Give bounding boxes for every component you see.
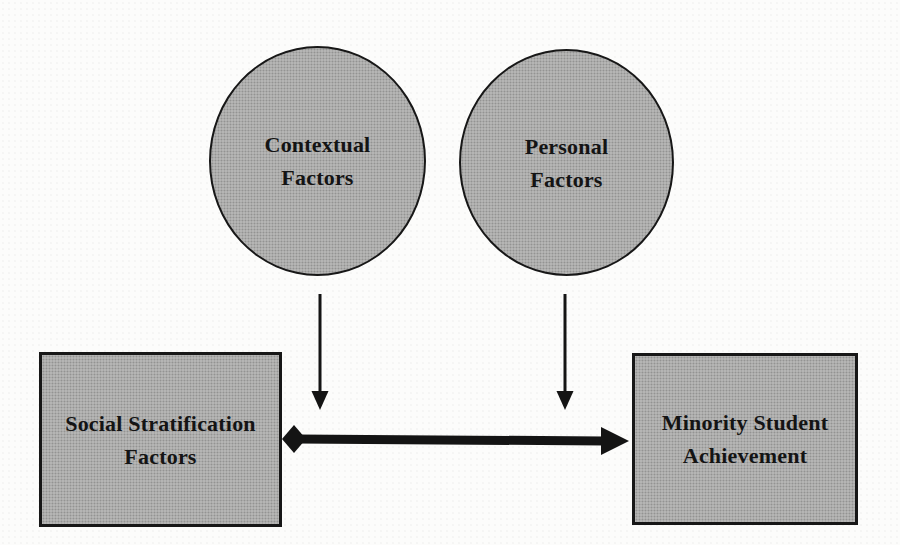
node-social-stratification-factors: Social Stratification Factors	[39, 352, 282, 527]
social-achievement-connector	[282, 425, 629, 455]
arrowhead-down-icon	[312, 391, 329, 410]
node-label-line: Achievement	[683, 439, 807, 472]
node-label-line: Social Stratification	[65, 407, 256, 440]
diamond-cap-icon	[282, 425, 306, 453]
contextual-down-arrow	[312, 294, 329, 410]
figure-canvas: Contextual Factors Personal Factors Soci…	[0, 0, 900, 545]
node-contextual-factors: Contextual Factors	[209, 46, 426, 276]
arrowhead-down-icon	[557, 391, 574, 410]
node-label-line: Personal	[525, 130, 608, 163]
node-personal-factors: Personal Factors	[459, 49, 674, 276]
node-minority-student-achievement: Minority Student Achievement	[632, 353, 858, 525]
node-label-line: Factors	[281, 161, 353, 194]
node-label-line: Factors	[530, 163, 602, 196]
node-label-line: Factors	[124, 440, 196, 473]
node-label-line: Contextual	[265, 128, 371, 161]
personal-down-arrow	[557, 294, 574, 410]
thick-arrow-shaft	[296, 439, 605, 441]
arrowhead-right-icon	[601, 427, 629, 455]
node-label-line: Minority Student	[662, 406, 828, 439]
